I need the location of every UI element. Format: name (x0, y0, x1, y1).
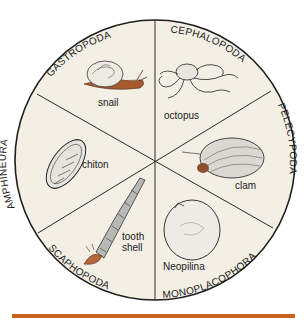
neopilina-icon (164, 200, 220, 260)
label-shell: shell (122, 242, 143, 253)
label-snail: snail (98, 97, 119, 108)
label-neopilina: Neopilina (163, 261, 205, 272)
label-octopus: octopus (164, 110, 199, 121)
label-clam: clam (235, 180, 256, 191)
label-chiton: chiton (82, 159, 109, 170)
class-amphineura: AMPHINEURA (0, 138, 17, 211)
accent-rule (12, 314, 295, 318)
label-tooth: tooth (122, 231, 144, 242)
mollusk-classes-diagram: GASTROPODA CEPHALOPODA PELECYPODA MONOPL… (0, 0, 304, 321)
